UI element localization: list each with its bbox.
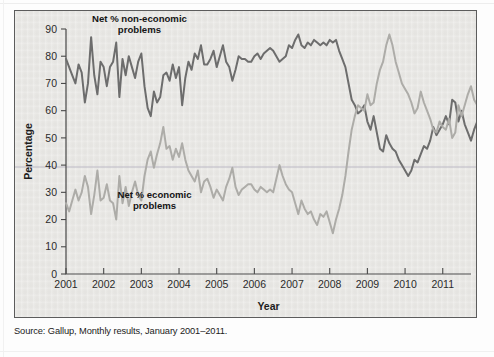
y-axis-title: Percentage: [22, 123, 34, 180]
economic-label-line2: problems: [133, 200, 176, 211]
page-edge-top-rule: [0, 3, 494, 4]
x-tick-label: 2005: [205, 278, 229, 290]
x-tick-label: 2009: [356, 278, 380, 290]
x-tick-label: 2006: [243, 278, 267, 290]
economic-label-line1: Net % economic: [117, 189, 192, 200]
x-tick-label: 2001: [54, 278, 78, 290]
x-tick-label: 2011: [431, 278, 454, 290]
non-economic-label-line1: Net % non-economic: [92, 13, 188, 24]
non-economic-label: Net % non-economicproblems: [92, 13, 188, 35]
series-annotations: Net % non-economicproblemsNet % economic…: [92, 13, 192, 211]
non-economic-label-line2: problems: [118, 24, 161, 35]
y-tick-label: 20: [45, 213, 57, 225]
y-tick-label: 80: [45, 50, 57, 62]
x-axis-title: Year: [257, 300, 279, 312]
y-tick-label: 50: [45, 132, 57, 144]
figure-container: 0102030405060708090 20012002200320042005…: [0, 0, 494, 357]
economic-label: Net % economicproblems: [117, 189, 192, 211]
x-tick-label: 2004: [167, 278, 191, 290]
y-tick-label: 70: [45, 77, 57, 89]
series-lines: [66, 34, 476, 233]
y-tick-label: 60: [45, 104, 57, 116]
x-tick-label: 2010: [393, 278, 417, 290]
x-axis-ticks: 2001200220032004200520062007200820092010…: [54, 268, 454, 290]
y-tick-label: 30: [45, 186, 57, 198]
x-tick-label: 2007: [280, 278, 304, 290]
y-tick-label: 10: [45, 240, 57, 252]
y-tick-label: 40: [45, 159, 57, 171]
y-tick-label: 90: [45, 23, 57, 35]
page-edge-left-rule: [3, 0, 4, 357]
line-chart: 0102030405060708090 20012002200320042005…: [15, 11, 476, 317]
y-axis-ticks: 0102030405060708090: [45, 23, 66, 280]
series-line-non-economic: [66, 34, 476, 176]
source-note: Source: Gallup, Monthly results, January…: [14, 326, 227, 336]
chart-panel: 0102030405060708090 20012002200320042005…: [14, 10, 477, 318]
x-tick-label: 2003: [130, 278, 154, 290]
page-edge-bottom-rule: [0, 351, 494, 352]
x-tick-label: 2002: [92, 278, 116, 290]
x-tick-label: 2008: [318, 278, 342, 290]
